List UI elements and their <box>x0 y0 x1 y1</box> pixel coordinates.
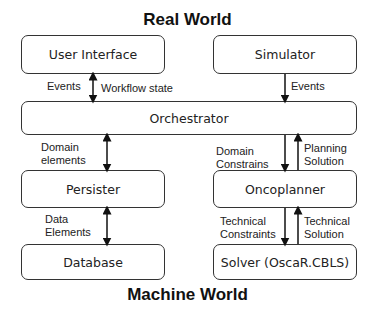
technical-solution-label: Technical Solution <box>304 215 350 241</box>
workflow-state-label: Workflow state <box>101 82 173 95</box>
technical-constraints-label: Technical Constraints <box>220 215 276 241</box>
planning-solution-label: Planning Solution <box>304 142 347 168</box>
ui-events-label: Events <box>47 80 81 93</box>
architecture-diagram: Real World User Interface Simulator Orch… <box>0 0 375 316</box>
domain-constrains-label: Domain Constrains <box>216 145 269 171</box>
data-elements-label: Data Elements <box>45 213 91 239</box>
domain-elements-label: Domain elements <box>41 141 86 167</box>
simulator-events-label: Events <box>291 80 325 93</box>
machine-world-title: Machine World <box>0 285 375 305</box>
